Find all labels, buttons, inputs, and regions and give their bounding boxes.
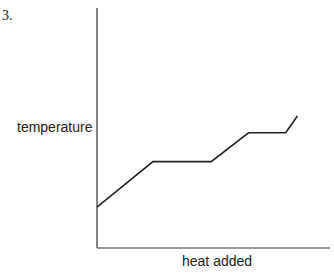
heating-curve-chart — [0, 0, 334, 274]
heating-curve-line — [97, 116, 297, 207]
